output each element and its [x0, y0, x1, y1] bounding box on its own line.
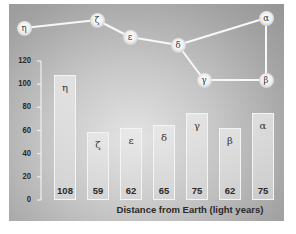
y-tick-label: 0	[9, 194, 31, 204]
bar-value-label: 108	[55, 185, 75, 196]
star-marker: γ	[197, 73, 212, 88]
bar: α75	[252, 113, 274, 200]
y-tick-label: 40	[9, 148, 31, 158]
bar-star-label: γ	[187, 120, 207, 131]
bar-star-label: α	[253, 120, 273, 131]
x-axis-label: Distance from Earth (light years)	[100, 204, 280, 215]
bar: β62	[219, 128, 241, 200]
bar: ε62	[120, 128, 142, 200]
constellation-line	[24, 20, 97, 28]
star-marker: α	[259, 11, 274, 26]
star-marker: ε	[123, 30, 138, 45]
star-marker: η	[17, 21, 32, 36]
constellation-line	[178, 18, 266, 45]
bar: η108	[54, 75, 76, 200]
bar-value-label: 62	[220, 185, 240, 196]
bar-star-label: ζ	[88, 139, 108, 150]
bar-star-label: ε	[121, 135, 141, 146]
bar-value-label: 75	[253, 185, 273, 196]
bar-star-label: δ	[154, 132, 174, 143]
bar-value-label: 62	[121, 185, 141, 196]
bar-value-label: 75	[187, 185, 207, 196]
bar: ζ59	[87, 132, 109, 200]
bar: γ75	[186, 113, 208, 200]
y-tick-label: 80	[9, 101, 31, 111]
y-tick-label: 100	[9, 78, 31, 88]
star-marker: δ	[171, 38, 186, 53]
y-tick-label: 120	[9, 55, 31, 65]
y-tick-label: 60	[9, 125, 31, 135]
bar-star-label: β	[220, 135, 240, 146]
bar-star-label: η	[55, 82, 75, 93]
bar-value-label: 59	[88, 185, 108, 196]
bar: δ65	[153, 125, 175, 200]
star-marker: β	[259, 73, 274, 88]
star-marker: ζ	[90, 13, 105, 28]
bar-value-label: 65	[154, 185, 174, 196]
y-tick-label: 20	[9, 171, 31, 181]
